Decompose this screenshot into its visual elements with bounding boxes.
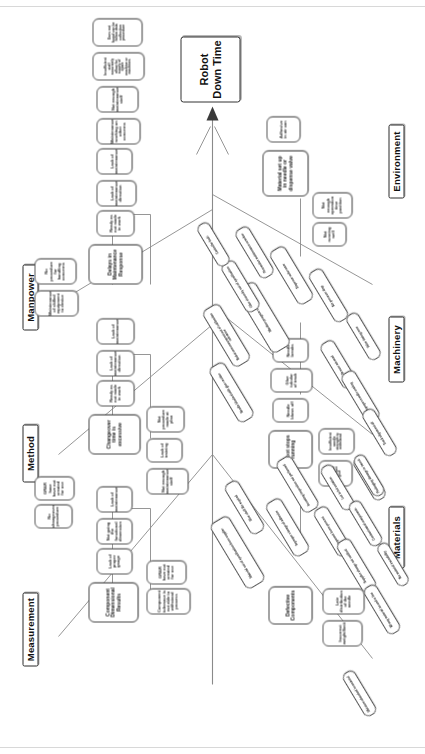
method-cause-4: Lack of training (146, 438, 182, 462)
manpower-cause-8: Does not found can be follow data collec… (92, 18, 142, 46)
cause-text: Component tolerance is not able to withs… (157, 590, 178, 612)
measurement-cause-0: Lack of proper gauge (96, 548, 132, 574)
measurement-primary-cause: Component Dimensional Results (88, 582, 138, 622)
cause-text: Does not found can be follow data collec… (108, 21, 125, 43)
cause-text: GR&R have not created for use (158, 563, 175, 581)
cause-text: Maintenance working on other concerns (110, 119, 127, 143)
category-text: Measurement (25, 597, 35, 660)
measurement-cause-3: Component tolerance is not able to withs… (146, 588, 190, 614)
machinery-cause-0: Needle blows off (272, 398, 308, 422)
cause-text: Not procedure made at plan (157, 409, 174, 429)
cause-text: No procedure for handling concerns (44, 261, 65, 281)
machinery-cause-3: Insufficient needle strength to withstan… (318, 428, 354, 454)
cause-text: Changeover time is excessive (106, 417, 122, 451)
method-cause-0: Ready as not made in work (96, 380, 134, 406)
cause-text: Insufficient needle strength to withstan… (329, 431, 343, 451)
cause-text: Lack of maintenance direction (109, 351, 122, 375)
cause-text: Defective Components (285, 589, 296, 621)
cause-text: Lack of maintenance (110, 149, 118, 173)
manpower-primary-cause: Delays in Maintenance Response (88, 244, 142, 284)
cause-text: Incorrect weight/limit (338, 622, 346, 644)
category-text: Environment (391, 131, 401, 191)
manpower-cause-2: Lack of maintenance (96, 148, 132, 174)
method-cause-2: Lack of maintenance (96, 318, 134, 344)
diagram-rotation-wrapper: Robot Down Time Measurement Method Manpo… (0, 0, 425, 754)
method-cause-6: No changeover procedure (34, 504, 72, 528)
cause-text: Glue tubular of track (285, 371, 298, 389)
method-cause-5: Not procedure made at plan (146, 406, 184, 432)
method-primary-cause: Changeover time is excessive (88, 414, 140, 454)
cause-text: Air pressure drop (320, 284, 335, 306)
cause-text: Lack of maintenance direction (110, 181, 123, 205)
cause-text: Lack of training (160, 441, 168, 459)
cause-text: Ready as not made in work (109, 213, 122, 233)
fishbone-diagram-page: Robot Down Time Measurement Method Manpo… (0, 0, 425, 754)
cause-text: Lack of maintenance (110, 487, 118, 511)
method-cause-7: GR&R have have not created for use (34, 476, 74, 500)
manpower-cause-4: No procedure for handling concerns (34, 258, 76, 284)
materials-primary-cause: Defective Components (268, 586, 312, 624)
measurement-cause-4: GR&R have not created for use (146, 560, 186, 584)
cause-text: Not running well (323, 225, 336, 243)
cause-text: Lack of proper gauge (108, 551, 121, 571)
measurement-cause-1: Not going the functional dimension (96, 518, 132, 544)
manpower-cause-1: Lack of maintenance direction (96, 180, 136, 206)
effect-head-box: Robot Down Time (180, 36, 240, 102)
cause-text: Not enough maintenance staff (161, 469, 174, 493)
category-label-method: Method (22, 424, 38, 482)
materials-cause-1: Late distribution of the needle (322, 588, 364, 614)
manpower-cause-6: Not enough maintenance staff (96, 86, 138, 112)
method-cause-3: Not enough maintenance staff (146, 468, 188, 494)
fishbone-canvas: Robot Down Time Measurement Method Manpo… (0, 0, 425, 754)
cause-text: Maintenance of skilled equipment to devi… (48, 291, 65, 315)
cause-text: Lack of maintenance (111, 319, 119, 343)
category-label-machinery: Machinery (388, 316, 404, 382)
measurement-cause-2: Lack of maintenance (96, 486, 132, 512)
manpower-cause-3: Maintenance of skilled equipment to devi… (34, 290, 78, 316)
manpower-cause-0: Ready as not made in work (96, 210, 134, 236)
cause-text: Component Dimensional Results (105, 585, 121, 619)
machinery-cause-1: Glue tubular of track (270, 368, 312, 392)
cause-text: Material set up in needle or dispense va… (277, 153, 293, 193)
environment-cause-0: Adhesive in air can (266, 116, 300, 142)
category-text: Method (25, 436, 35, 471)
cause-text: Controller fault (206, 234, 219, 253)
cause-text: Delays in Maintenance Response (107, 247, 123, 281)
cause-text: Sensor misread (331, 354, 345, 374)
cause-text: Not enough maintenance staff (111, 87, 124, 111)
cause-text: GR&R have have not created for use (43, 479, 64, 497)
manpower-cause-7: Insufficient staff accurately allow for … (92, 52, 144, 80)
environment-primary-cause: Material set up in needle or dispense va… (262, 150, 308, 196)
environment-cause-1: Not running well (312, 222, 346, 246)
cause-text: Adhesive in air can (279, 119, 287, 139)
manpower-cause-5: Maintenance working on other concerns (96, 118, 140, 144)
cause-text: No changeover procedure (47, 505, 60, 527)
cause-text: Insufficient staff accurately allow for … (104, 55, 132, 77)
effect-head-label: Robot Down Time (197, 39, 222, 99)
materials-cause-0: Incorrect weight/limit (322, 620, 362, 646)
category-label-measurement: Measurement (22, 592, 38, 666)
cause-text: Needle blows off (286, 401, 294, 419)
cause-text: Not going the functional dimension (106, 521, 123, 541)
cause-text: Late distribution of the needle (335, 590, 352, 612)
environment-cause-2: Not enough operation time position (312, 192, 352, 218)
method-cause-1: Lack of maintenance direction (96, 350, 134, 376)
cause-text: Ready as not made in work (109, 383, 122, 403)
category-label-environment: Environment (388, 124, 404, 198)
category-text: Machinery (391, 325, 401, 374)
cause-text: Not enough operation time position (321, 195, 342, 215)
